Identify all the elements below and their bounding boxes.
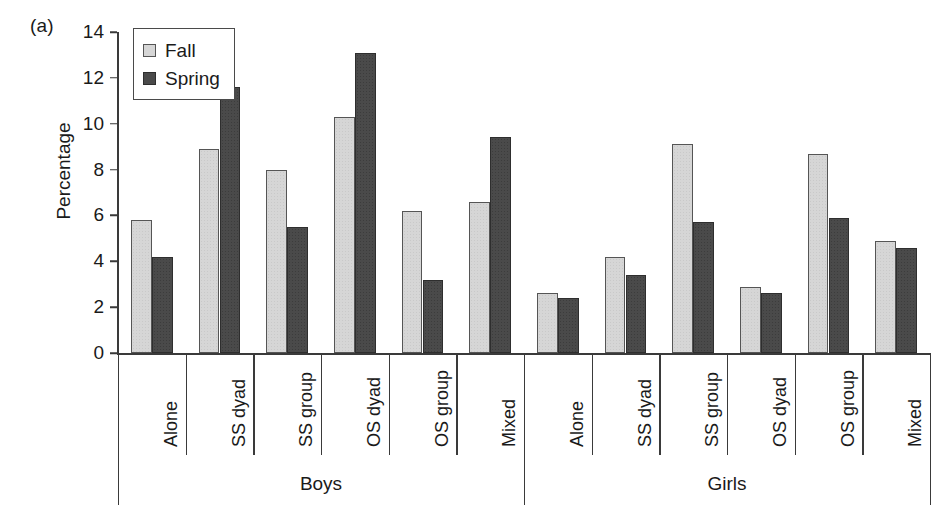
bar-spring xyxy=(896,248,917,353)
bar-spring xyxy=(761,293,782,353)
legend-label: Fall xyxy=(165,41,196,60)
chart-legend: FallSpring xyxy=(133,28,235,100)
bar-fall xyxy=(402,211,423,353)
bar-spring xyxy=(423,280,444,353)
axis-separator xyxy=(862,355,863,455)
x-axis-group-label: Girls xyxy=(524,473,930,495)
bar-group xyxy=(253,32,321,353)
bar-fall xyxy=(131,220,152,353)
y-axis-tick-label: 0 xyxy=(62,342,104,364)
bar-spring xyxy=(558,298,579,353)
y-axis-tick-label: 2 xyxy=(62,296,104,318)
bar-fall xyxy=(808,154,829,353)
x-axis-category-label: Alone xyxy=(161,401,182,447)
bar-spring xyxy=(355,53,376,353)
x-axis-category-label: Mixed xyxy=(905,399,926,447)
axis-separator xyxy=(456,355,457,455)
bar-fall xyxy=(469,202,490,353)
bar-group xyxy=(389,32,457,353)
bar-spring xyxy=(626,275,647,353)
bar-fall xyxy=(334,117,355,353)
bar-group xyxy=(659,32,727,353)
x-axis-category-label: OS group xyxy=(432,370,453,447)
y-axis-tick-label: 14 xyxy=(62,21,104,43)
bar-spring xyxy=(220,87,241,353)
y-axis-tick-mark xyxy=(110,215,117,217)
x-axis-category-label: OS group xyxy=(838,370,859,447)
y-axis-tick-mark xyxy=(110,261,117,263)
y-axis-tick-mark xyxy=(110,352,117,354)
x-axis-category-label: SS dyad xyxy=(229,379,250,447)
x-axis-group-label: Boys xyxy=(118,473,524,495)
legend-item: Fall xyxy=(143,36,220,64)
axis-separator xyxy=(321,355,322,455)
y-axis-tick-label: 4 xyxy=(62,250,104,272)
axis-separator xyxy=(253,355,254,455)
bar-spring xyxy=(829,218,850,353)
bar-group xyxy=(321,32,389,353)
bar-fall xyxy=(266,170,287,353)
axis-separator xyxy=(592,355,593,455)
axis-separator xyxy=(389,355,390,455)
x-axis-category-label: OS dyad xyxy=(770,377,791,447)
bar-spring xyxy=(490,137,511,353)
x-axis-category-label: Mixed xyxy=(499,399,520,447)
bar-spring xyxy=(287,227,308,353)
chart-figure: (a) Percentage 02468101214 AloneSS dyadS… xyxy=(0,0,945,518)
legend-swatch-fall xyxy=(143,44,156,57)
y-axis-tick-mark xyxy=(110,169,117,171)
y-axis-tick-mark xyxy=(110,123,117,125)
legend-label: Spring xyxy=(165,69,220,88)
legend-item: Spring xyxy=(143,64,220,92)
y-axis-tick-mark xyxy=(110,306,117,308)
bar-fall xyxy=(672,144,693,353)
plot-area xyxy=(118,32,930,353)
x-axis-category-label: OS dyad xyxy=(364,377,385,447)
axis-separator xyxy=(795,355,796,455)
bar-group xyxy=(862,32,930,353)
bar-group xyxy=(592,32,660,353)
x-axis-category-label: Alone xyxy=(567,401,588,447)
bar-group xyxy=(795,32,863,353)
axis-separator xyxy=(186,355,187,455)
bar-fall xyxy=(199,149,220,353)
bar-spring xyxy=(693,222,714,353)
panel-label: (a) xyxy=(30,15,54,37)
x-axis-category-label: SS group xyxy=(702,372,723,447)
axis-separator xyxy=(727,355,728,455)
y-axis-tick-mark xyxy=(110,77,117,79)
bar-fall xyxy=(740,287,761,353)
bar-group xyxy=(524,32,592,353)
bar-fall xyxy=(605,257,626,353)
bar-group xyxy=(456,32,524,353)
bar-fall xyxy=(875,241,896,353)
x-axis-category-label: SS dyad xyxy=(635,379,656,447)
legend-swatch-spring xyxy=(143,72,156,85)
y-axis-tick-mark xyxy=(110,31,117,33)
y-axis-tick-label: 10 xyxy=(62,113,104,135)
axis-separator xyxy=(930,355,931,505)
bar-group xyxy=(727,32,795,353)
y-axis-tick-label: 6 xyxy=(62,204,104,226)
y-axis-tick-label: 8 xyxy=(62,159,104,181)
bar-spring xyxy=(152,257,173,353)
x-axis-category-label: SS group xyxy=(296,372,317,447)
y-axis-tick-label: 12 xyxy=(62,67,104,89)
axis-separator xyxy=(659,355,660,455)
bar-fall xyxy=(537,293,558,353)
